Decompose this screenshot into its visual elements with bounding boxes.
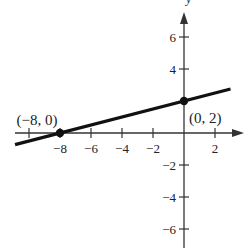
y-tick-label: −6 — [162, 222, 176, 237]
point-label: (0, 2) — [189, 110, 222, 127]
x-tick-label: 2 — [212, 141, 219, 156]
y-axis-arrow-icon — [180, 12, 188, 24]
y-tick-label: −2 — [162, 158, 176, 173]
x-tick-label: −4 — [115, 141, 129, 156]
x-tick-label: −6 — [84, 141, 98, 156]
data-point — [180, 97, 188, 105]
x-tick-label: −2 — [146, 141, 160, 156]
point-label: (−8, 0) — [17, 112, 58, 129]
x-tick-label: −8 — [53, 141, 67, 156]
y-tick-label: 4 — [170, 62, 177, 77]
line-graph: y −8−6−4−22−6−4−246 (−8, 0)(0, 2) — [0, 0, 249, 248]
x-axis-arrow-icon — [232, 129, 244, 137]
y-axis-label: y — [185, 0, 192, 6]
data-point — [56, 129, 64, 137]
y-tick-label: −4 — [162, 190, 176, 205]
y-tick-label: 6 — [170, 30, 177, 45]
